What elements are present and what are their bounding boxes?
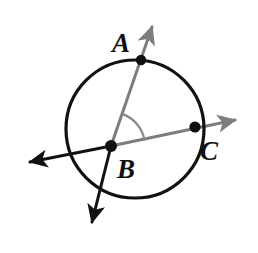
geometry-diagram: A B C [0,0,258,253]
point-a-label: A [110,28,130,58]
point-b-label: B [116,154,135,184]
point-c-label: C [200,136,219,166]
point-a-dot [136,55,146,65]
point-b-dot [105,140,117,152]
point-c-dot [189,121,200,132]
angle-abc-arc [122,114,144,140]
geometry-figure-canvas: A B C [0,0,258,253]
